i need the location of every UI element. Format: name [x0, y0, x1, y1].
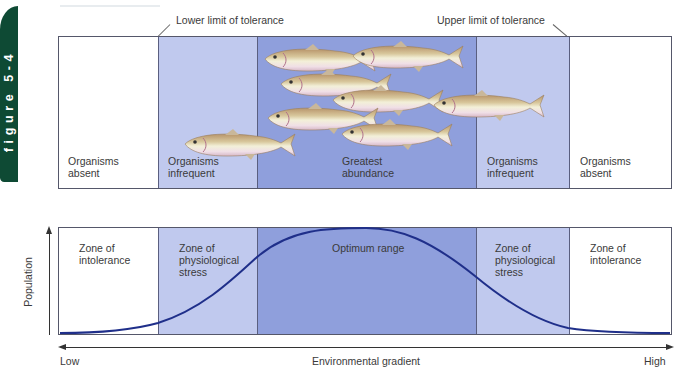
x-axis-left-arrow-icon: [58, 344, 66, 350]
y-axis: [49, 232, 50, 335]
x-axis: [64, 347, 668, 348]
y-axis-label: Population: [22, 252, 34, 312]
x-axis-low-label: Low: [60, 355, 79, 367]
x-axis-high-label: High: [644, 355, 666, 367]
x-axis-right-arrow-icon: [666, 344, 674, 350]
x-axis-label: Environmental gradient: [312, 355, 420, 367]
y-axis-arrow-icon: [46, 226, 52, 234]
population-bell-curve: [0, 0, 674, 376]
